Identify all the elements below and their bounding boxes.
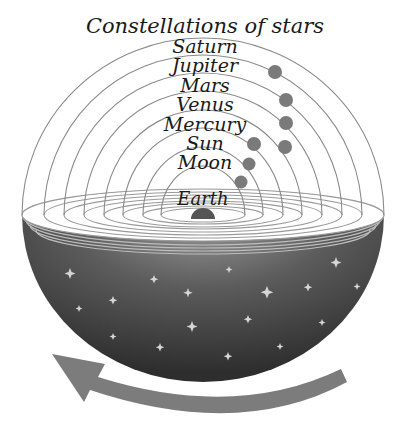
geocentric-diagram: Constellations of stars Saturn Jupiter M…	[0, 0, 394, 440]
planet-sun-dot	[247, 137, 261, 151]
label-jupiter: Jupiter	[168, 54, 240, 76]
label-moon: Moon	[177, 151, 233, 173]
sphere-labels: Constellations of stars Saturn Jupiter M…	[86, 14, 324, 209]
planet-jupiter-dot	[268, 65, 282, 79]
label-earth: Earth	[176, 188, 228, 209]
planet-venus-dot	[279, 116, 293, 130]
planet-mercury-dot	[278, 140, 292, 154]
planet-moon-dot	[243, 158, 256, 171]
label-venus: Venus	[176, 93, 234, 115]
planet-extra-dot	[235, 176, 248, 189]
planet-mars-dot	[279, 93, 293, 107]
